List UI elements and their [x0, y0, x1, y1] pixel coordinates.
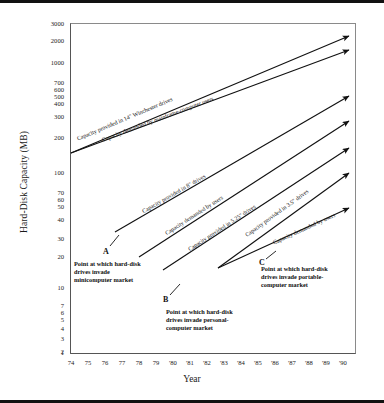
y-tick-label: 700	[30, 79, 64, 86]
annotation-minicomputer-line2: drives invade	[74, 268, 141, 276]
annotation-personal-computer-line2: drives invade personal-	[166, 316, 233, 324]
leader-b	[170, 284, 180, 295]
y-tick-label: 100	[30, 169, 64, 176]
annotation-portable-computer: Point at which hard-disk drives invade p…	[261, 265, 328, 290]
y-tick-label: 4	[30, 325, 64, 332]
y-tick-label: 1	[30, 349, 64, 356]
y-tick-label: 600	[30, 86, 64, 93]
y-tick-label: 6	[30, 309, 64, 316]
x-axis-title: Year	[0, 374, 384, 384]
y-tick-label: 60	[30, 196, 64, 203]
series-line-users-demanded-mini	[139, 121, 349, 257]
y-tick-label: 200	[30, 134, 64, 141]
y-axis-title: Hard-Disk Capacity (MB)	[19, 82, 29, 282]
y-tick-label: 1000	[30, 59, 64, 66]
plot-frame	[71, 24, 356, 354]
y-tick-label: 20	[30, 253, 64, 260]
annotation-minicomputer: Point at which hard-disk drives invade m…	[74, 260, 141, 285]
y-tick-label: 5	[30, 316, 64, 323]
annotation-personal-computer-line3: computer market	[166, 324, 233, 332]
annotation-personal-computer-line1: Point at which hard-disk	[166, 308, 233, 316]
y-tick-label: 3	[30, 335, 64, 342]
y-tick-label: 500	[30, 93, 64, 100]
point-marker-b: B	[163, 295, 168, 304]
y-tick-label: 50	[30, 203, 64, 210]
leader-a	[110, 235, 119, 246]
annotation-minicomputer-line1: Point at which hard-disk	[74, 260, 141, 268]
y-tick-label: 40	[30, 216, 64, 223]
y-tick-label: 400	[30, 100, 64, 107]
y-tick-label: 10	[30, 284, 64, 291]
y-tick-label: 300	[30, 113, 64, 120]
annotation-portable-computer-line3: computer market	[261, 281, 328, 289]
y-tick-label: 2000	[30, 37, 64, 44]
annotation-portable-computer-line2: drives invade portable-	[261, 273, 328, 281]
point-marker-a: A	[103, 247, 109, 256]
y-tick-label: 70	[30, 189, 64, 196]
annotation-personal-computer: Point at which hard-disk drives invade p…	[166, 308, 233, 333]
y-tick-label: 7	[30, 302, 64, 309]
annotation-minicomputer-line3: minicomputer market	[74, 276, 141, 284]
annotation-portable-computer-line1: Point at which hard-disk	[261, 265, 328, 273]
x-tick-label: '90	[333, 359, 353, 366]
y-tick-label: 30	[30, 235, 64, 242]
chart-figure: Hard-Disk Capacity (MB) Year 3000 2000 1…	[0, 0, 384, 403]
y-tick-label: 3000	[30, 20, 64, 27]
series-line-525inch-provided	[163, 148, 349, 270]
leader-c	[266, 251, 276, 259]
series-line-8inch-provided	[115, 96, 349, 232]
